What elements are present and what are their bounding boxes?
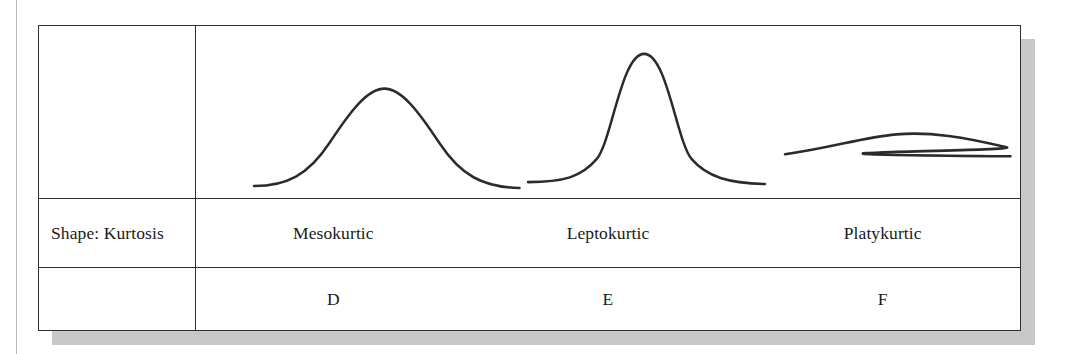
table-row-letters: D E F	[39, 268, 1020, 330]
letters-row-label-cell	[39, 268, 195, 330]
label-column-divider	[195, 26, 196, 330]
mesokurtic-curve	[254, 89, 519, 188]
shape-name-leptokurtic: Leptokurtic	[471, 199, 746, 267]
shape-name-cells: Mesokurtic Leptokurtic Platykurtic	[196, 199, 1020, 267]
table-row-shape-names: Shape: Kurtosis Mesokurtic Leptokurtic P…	[39, 199, 1020, 268]
curves-row-label-cell	[39, 26, 195, 198]
letter-cells: D E F	[196, 268, 1020, 330]
shape-kurtosis-label-cell: Shape: Kurtosis	[39, 199, 195, 267]
shape-name-mesokurtic: Mesokurtic	[196, 199, 471, 267]
distribution-curves-svg	[196, 26, 1020, 198]
platykurtic-curve	[785, 134, 1011, 157]
page-gutter-rule	[16, 0, 17, 354]
table-row-curves	[39, 26, 1020, 199]
leptokurtic-curve	[528, 54, 765, 184]
figure-letter-f: F	[745, 268, 1020, 330]
figure-letter-e: E	[471, 268, 746, 330]
shape-kurtosis-label: Shape: Kurtosis	[51, 223, 164, 244]
kurtosis-comparison-table: Shape: Kurtosis Mesokurtic Leptokurtic P…	[38, 25, 1021, 331]
shape-name-platykurtic: Platykurtic	[745, 199, 1020, 267]
figure-letter-d: D	[196, 268, 471, 330]
distribution-curves-canvas	[196, 26, 1020, 198]
